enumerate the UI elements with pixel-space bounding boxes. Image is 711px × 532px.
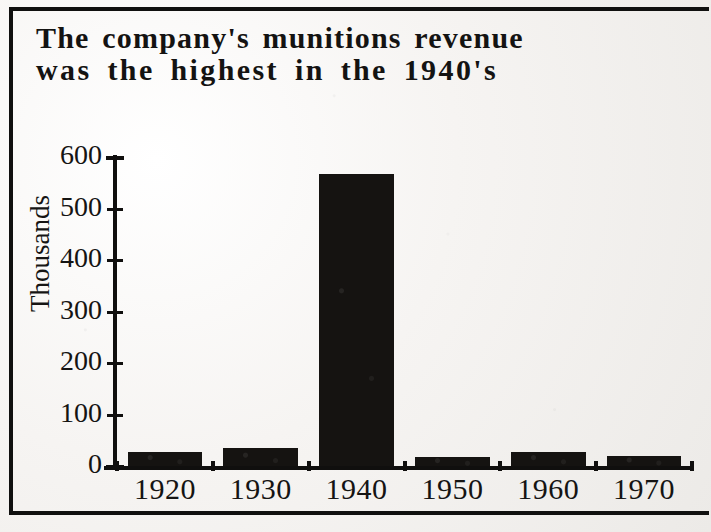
x-axis-line <box>104 466 692 470</box>
x-axis-tick <box>498 461 502 471</box>
y-axis-tick-label: 600 <box>28 141 102 169</box>
x-axis-tick <box>690 461 694 471</box>
y-axis-tick-label: 300 <box>28 296 102 324</box>
y-axis-tick <box>107 208 123 211</box>
plot-area: Thousands 0100200300400500600 1920193019… <box>0 0 711 532</box>
x-axis-tick <box>211 461 215 471</box>
y-axis-tick <box>106 156 124 160</box>
y-axis-tick <box>107 311 123 314</box>
y-axis-tick-label: 500 <box>28 193 102 221</box>
y-axis-tick <box>107 362 123 365</box>
bar-1930 <box>223 448 298 466</box>
bar-1960 <box>511 452 586 466</box>
x-axis-tick <box>403 461 407 471</box>
bar-1970 <box>607 456 682 466</box>
y-axis-tick-label: 0 <box>28 450 102 478</box>
x-axis-tick <box>115 461 119 471</box>
bar-1920 <box>128 452 203 466</box>
bar-1950 <box>415 457 490 466</box>
x-axis-tick <box>594 461 598 471</box>
x-axis-tick <box>307 461 311 471</box>
chart-page: The company's munitions revenue was the … <box>0 0 711 532</box>
y-axis-tick-label: 400 <box>28 244 102 272</box>
y-axis-tick-label: 200 <box>28 347 102 375</box>
x-axis-tick-label: 1970 <box>584 472 704 506</box>
y-axis-tick <box>107 259 123 262</box>
y-axis-tick <box>107 414 123 417</box>
bar-1940 <box>319 174 394 466</box>
y-axis-tick-label: 100 <box>28 399 102 427</box>
